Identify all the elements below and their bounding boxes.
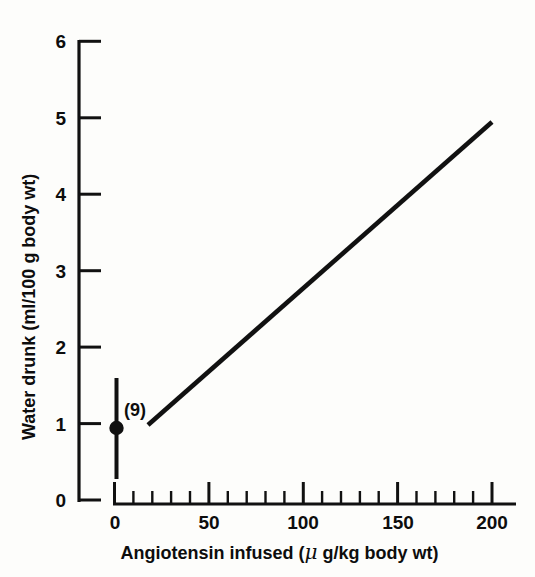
xtick-label-200: 200: [476, 513, 508, 532]
dose-response-line: [148, 122, 492, 425]
xtick-label-150: 150: [382, 513, 414, 532]
xtick-label-0: 0: [110, 513, 121, 532]
ytick-label-1: 1: [44, 415, 66, 434]
ytick-label-6: 6: [44, 32, 66, 51]
y-axis-title: Water drunk (ml/100 g body wt): [20, 174, 38, 440]
x-axis-title: Angiotensin infused (μ g/kg body wt): [0, 542, 535, 562]
ytick-label-3: 3: [44, 262, 66, 281]
ytick-label-5: 5: [44, 109, 66, 128]
x-axis-title-after: g/kg body wt): [318, 543, 439, 563]
x-axis-title-before: Angiotensin infused (: [121, 543, 305, 563]
xtick-label-50: 50: [198, 513, 219, 532]
y-axis-ticks: [79, 41, 101, 500]
figure-container: 6 5 4 3 2 1 0 0 50 100 150 200 (9) Water…: [0, 0, 535, 577]
xtick-label-100: 100: [287, 513, 319, 532]
sample-size-annotation: (9): [124, 401, 146, 419]
ytick-label-4: 4: [44, 185, 66, 204]
mu-symbol: μ: [305, 540, 318, 564]
ytick-label-2: 2: [44, 338, 66, 357]
plot-canvas: [0, 0, 535, 577]
control-data-point: [109, 421, 123, 435]
ytick-label-0: 0: [44, 491, 66, 510]
